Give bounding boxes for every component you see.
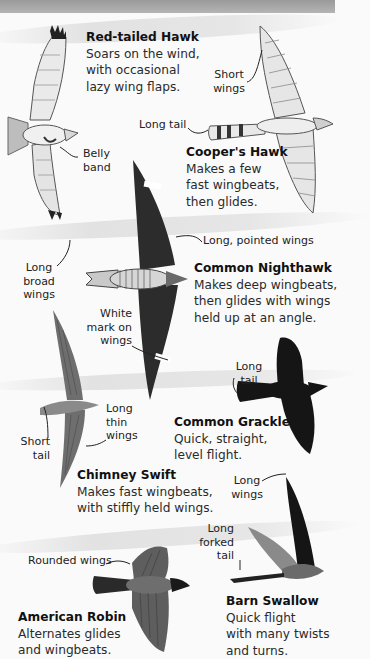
common-grackle-caption: Common Grackle Quick, straight, level fl… (174, 414, 290, 464)
american-robin-caption: American Robin Alternates glides and win… (18, 609, 126, 659)
chimney-swift-caption: Chimney Swift Makes fast wingbeats, with… (77, 467, 213, 517)
nighthawk-body (110, 269, 170, 289)
red-tailed-hawk-illustration (0, 25, 90, 220)
bird-description-line: and wingbeats. (18, 642, 126, 659)
coopers-hawk-caption: Cooper's Hawk Makes a few fast wingbeats… (186, 144, 288, 210)
grackle-upper-wing (277, 338, 304, 386)
label-line: wings (86, 334, 132, 348)
bird-description-line: Quick flight (226, 610, 330, 627)
label-long-tail-grackle: Long tail (234, 360, 264, 387)
label-line: Long tail (139, 118, 186, 132)
bird-description-line: Soars on the wind, (86, 46, 200, 63)
bird-description-line: with occasional (86, 62, 200, 79)
label-belly-band: Belly band (83, 147, 111, 174)
bird-name: American Robin (18, 609, 126, 626)
label-line: thin (106, 416, 138, 430)
coopers-upper-wing (260, 26, 305, 118)
bird-description-line: Quick, straight, (174, 431, 290, 448)
label-line: Short (10, 435, 50, 449)
label-long-broad-wings: Long broad wings (20, 261, 58, 302)
label-line: Long, pointed wings (203, 234, 314, 248)
label-long-thin-wings: Long thin wings (106, 402, 138, 443)
label-line: broad (20, 275, 58, 289)
label-line: tail (234, 374, 264, 388)
hawk-head (64, 129, 78, 141)
bird-description-line: Makes a few (186, 161, 288, 178)
common-nighthawk-caption: Common Nighthawk Makes deep wingbeats, t… (194, 260, 337, 326)
hawk-wingtip-feathers (50, 25, 66, 39)
label-line: Long (230, 474, 264, 488)
hawk-upper-wing (30, 33, 66, 120)
bird-name: Common Nighthawk (194, 260, 337, 277)
nighthawk-lower-wing (138, 285, 178, 400)
coopers-head (313, 118, 333, 130)
label-short-wings: Short wings (210, 68, 248, 95)
hawk-body (23, 125, 67, 145)
bird-description-line: then glides. (186, 194, 288, 211)
bird-name: Cooper's Hawk (186, 144, 288, 161)
grackle-head (308, 382, 328, 396)
label-line: tail (10, 449, 50, 463)
bird-description-line: held up at an angle. (194, 310, 337, 327)
label-line: Long (234, 360, 264, 374)
label-line: Long (106, 402, 138, 416)
bird-name: Red-tailed Hawk (86, 29, 200, 46)
bird-description-line: Makes deep wingbeats, (194, 277, 337, 294)
label-line: White (86, 307, 132, 321)
label-line: Long (20, 261, 58, 275)
label-line: mark on (86, 321, 132, 335)
bird-description-line: lazy wing flaps. (86, 79, 200, 96)
label-line: wings (20, 288, 58, 302)
label-line: wings (230, 488, 264, 502)
label-short-tail: Short tail (10, 435, 50, 462)
red-tailed-hawk-caption: Red-tailed Hawk Soars on the wind, with … (86, 29, 200, 95)
label-rounded-wings: Rounded wings (28, 554, 112, 568)
bird-description-line: with many twists (226, 626, 330, 643)
label-line: Short (210, 68, 248, 82)
label-white-mark: White mark on wings (86, 307, 132, 348)
label-long-forked-tail: Long forked tail (198, 522, 234, 563)
label-long-pointed-wings: Long, pointed wings (203, 234, 314, 248)
label-line: Belly (83, 147, 111, 161)
bird-description-line: with stiffly held wings. (77, 500, 213, 517)
label-long-tail-coopers: Long tail (139, 118, 186, 132)
arrow-long-broad-wings (57, 240, 70, 266)
bird-description-line: then glides with wings (194, 293, 337, 310)
bird-description-line: and turns. (226, 643, 330, 659)
bird-description-line: Makes fast wingbeats, (77, 484, 213, 501)
label-line: Long (198, 522, 234, 536)
label-line: Rounded wings (28, 554, 112, 568)
robin-lower-wing (132, 590, 169, 652)
bird-description-line: fast wingbeats, (186, 177, 288, 194)
nighthawk-head (166, 271, 188, 287)
swallow-tail (230, 573, 284, 583)
nighthawk-upper-wing (133, 160, 175, 270)
bird-name: Barn Swallow (226, 593, 330, 610)
label-line: wings (210, 82, 248, 96)
grackle-body (264, 381, 312, 399)
bird-description-line: Alternates glides (18, 626, 126, 643)
label-line: wings (106, 429, 138, 443)
coopers-body (257, 118, 317, 134)
bird-name: Chimney Swift (77, 467, 213, 484)
barn-swallow-caption: Barn Swallow Quick flight with many twis… (226, 593, 330, 659)
robin-body (126, 576, 174, 594)
bird-name: Common Grackle (174, 414, 290, 431)
bird-description-line: level flight. (174, 447, 290, 464)
label-line: forked (198, 536, 234, 550)
label-long-wings-swallow: Long wings (230, 474, 264, 501)
top-texture-band (0, 0, 335, 13)
hawk-lower-wing (32, 143, 60, 215)
robin-head (170, 578, 190, 592)
label-line: tail (198, 549, 234, 563)
label-line: band (83, 161, 111, 175)
